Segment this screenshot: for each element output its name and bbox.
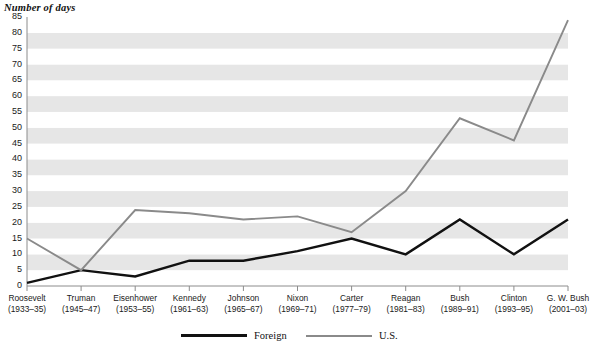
y-axis-tick-label: 0 bbox=[0, 280, 22, 290]
plot-bands bbox=[27, 17, 568, 286]
legend-swatch-us bbox=[306, 335, 372, 337]
y-axis-tick-label: 15 bbox=[0, 233, 22, 243]
chart-legend: Foreign U.S. bbox=[0, 330, 572, 350]
legend-item-us: U.S. bbox=[306, 330, 398, 341]
y-axis-tick-label: 80 bbox=[0, 27, 22, 37]
legend-label-us: U.S. bbox=[379, 330, 398, 341]
y-axis-tick-label: 60 bbox=[0, 90, 22, 100]
y-axis-tick-label: 30 bbox=[0, 185, 22, 195]
x-axis-tick-label: G. W. Bush(2001–03) bbox=[536, 293, 594, 314]
x-axis-ticks bbox=[27, 286, 568, 291]
x-axis-tick-years: (2001–03) bbox=[536, 304, 594, 315]
legend-item-foreign: Foreign bbox=[181, 330, 287, 341]
x-axis-tick-name: G. W. Bush bbox=[536, 293, 594, 304]
legend-swatch-foreign bbox=[181, 334, 247, 337]
y-axis-tick-label: 55 bbox=[0, 106, 22, 116]
y-axis-tick-label: 40 bbox=[0, 153, 22, 163]
y-axis-tick-label: 20 bbox=[0, 217, 22, 227]
y-axis-tick-label: 65 bbox=[0, 74, 22, 84]
y-axis-tick-label: 75 bbox=[0, 43, 22, 53]
y-axis-tick-label: 10 bbox=[0, 248, 22, 258]
y-axis-tick-label: 5 bbox=[0, 264, 22, 274]
y-axis-tick-label: 25 bbox=[0, 201, 22, 211]
y-axis-tick-label: 50 bbox=[0, 122, 22, 132]
y-axis-tick-label: 85 bbox=[0, 11, 22, 21]
legend-label-foreign: Foreign bbox=[254, 330, 287, 341]
y-axis-tick-label: 70 bbox=[0, 59, 22, 69]
y-axis-tick-label: 35 bbox=[0, 169, 22, 179]
y-axis-tick-label: 45 bbox=[0, 138, 22, 148]
